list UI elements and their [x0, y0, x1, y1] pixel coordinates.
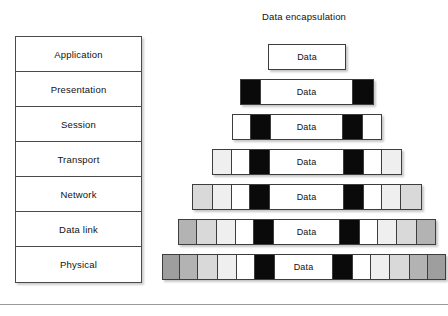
encapsulation-header-segment — [250, 150, 270, 174]
encapsulation-payload-label: Data — [297, 52, 317, 62]
osi-layer-row: Network — [16, 177, 141, 212]
encapsulation-trailer-segment — [410, 255, 428, 279]
osi-layer-label: Session — [61, 119, 96, 130]
encapsulation-header-segment — [250, 185, 270, 209]
encapsulation-row: Data — [212, 149, 402, 175]
encapsulation-payload: Data — [261, 80, 353, 104]
encapsulation-header-segment — [233, 115, 251, 139]
encapsulation-trailer-segment — [364, 185, 382, 209]
osi-layer-label: Network — [60, 189, 96, 200]
encapsulation-header-segment — [255, 255, 275, 279]
osi-layer-row: Data link — [16, 212, 141, 247]
encapsulation-trailer-segment — [363, 115, 381, 139]
encapsulation-trailer-segment — [353, 255, 371, 279]
encapsulation-trailer-segment — [340, 220, 360, 244]
encapsulation-header-segment — [241, 80, 261, 104]
encapsulation-row: Data — [162, 254, 446, 280]
encapsulation-header-segment — [179, 220, 197, 244]
osi-layer-stack: ApplicationPresentationSessionTransportN… — [15, 36, 142, 283]
osi-layer-label: Data link — [59, 224, 98, 235]
encapsulation-payload: Data — [270, 150, 344, 174]
footer-divider — [0, 304, 448, 305]
encapsulation-payload: Data — [269, 45, 345, 69]
encapsulation-trailer-segment — [428, 255, 445, 279]
encapsulation-header-segment — [193, 185, 213, 209]
encapsulation-payload: Data — [275, 255, 333, 279]
encapsulation-trailer-segment — [364, 150, 382, 174]
osi-layer-label: Transport — [57, 154, 99, 165]
encapsulation-row: Data — [232, 114, 382, 140]
encapsulation-trailer-segment — [390, 255, 410, 279]
encapsulation-payload-label: Data — [294, 262, 314, 272]
diagram-canvas: ApplicationPresentationSessionTransportN… — [0, 0, 448, 316]
encapsulation-trailer-segment — [344, 150, 364, 174]
osi-layer-row: Transport — [16, 142, 141, 177]
encapsulation-row: Data — [192, 184, 422, 210]
osi-layer-row: Application — [16, 37, 141, 72]
encapsulation-payload: Data — [270, 185, 344, 209]
encapsulation-trailer-segment — [353, 80, 373, 104]
encapsulation-row: Data — [178, 219, 436, 245]
encapsulation-title: Data encapsulation — [262, 11, 346, 22]
encapsulation-header-segment — [213, 150, 232, 174]
osi-layer-row: Session — [16, 107, 141, 142]
osi-layer-label: Application — [54, 49, 103, 60]
osi-layer-label: Presentation — [51, 84, 107, 95]
encapsulation-trailer-segment — [344, 185, 364, 209]
encapsulation-trailer-segment — [382, 185, 401, 209]
encapsulation-payload-label: Data — [297, 192, 317, 202]
encapsulation-pyramid: DataDataDataDataDataDataData — [160, 38, 448, 303]
encapsulation-payload: Data — [274, 220, 340, 244]
encapsulation-header-segment — [197, 220, 217, 244]
encapsulation-header-segment — [232, 150, 250, 174]
encapsulation-trailer-segment — [417, 220, 435, 244]
encapsulation-row: Data — [268, 44, 346, 70]
encapsulation-trailer-segment — [343, 115, 363, 139]
encapsulation-trailer-segment — [382, 150, 401, 174]
encapsulation-header-segment — [232, 185, 250, 209]
encapsulation-trailer-segment — [371, 255, 390, 279]
encapsulation-payload: Data — [271, 115, 343, 139]
encapsulation-payload-label: Data — [297, 122, 317, 132]
encapsulation-header-segment — [217, 220, 236, 244]
encapsulation-payload-label: Data — [297, 157, 317, 167]
encapsulation-payload-label: Data — [297, 227, 317, 237]
encapsulation-trailer-segment — [360, 220, 378, 244]
encapsulation-header-segment — [198, 255, 218, 279]
encapsulation-trailer-segment — [401, 185, 421, 209]
encapsulation-header-segment — [218, 255, 237, 279]
encapsulation-trailer-segment — [397, 220, 417, 244]
encapsulation-header-segment — [163, 255, 180, 279]
encapsulation-header-segment — [237, 255, 255, 279]
encapsulation-header-segment — [251, 115, 271, 139]
encapsulation-header-segment — [236, 220, 254, 244]
encapsulation-row: Data — [240, 79, 374, 105]
encapsulation-header-segment — [180, 255, 198, 279]
osi-layer-label: Physical — [60, 259, 97, 270]
encapsulation-payload-label: Data — [297, 87, 317, 97]
osi-layer-row: Presentation — [16, 72, 141, 107]
encapsulation-header-segment — [254, 220, 274, 244]
encapsulation-trailer-segment — [333, 255, 353, 279]
osi-layer-row: Physical — [16, 247, 141, 282]
encapsulation-header-segment — [213, 185, 232, 209]
encapsulation-trailer-segment — [378, 220, 397, 244]
